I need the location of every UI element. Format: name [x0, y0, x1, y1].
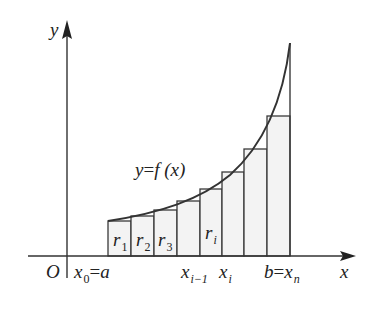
curve-label-rhs: f (x): [154, 159, 185, 180]
tick-label-b-equals-xn: b=xn: [264, 262, 300, 281]
curve-label: y=f (x): [135, 160, 185, 179]
rectangle-4: [177, 201, 200, 256]
bar-label-ri: ri: [205, 223, 217, 242]
y-axis-label: y: [50, 20, 58, 39]
curve-label-eq: =: [143, 159, 154, 180]
rectangle-7: [244, 149, 267, 256]
bar-label-r3: r3: [158, 230, 172, 249]
tick-label-x-i: xi: [219, 262, 232, 281]
x-axis-label: x: [340, 262, 348, 281]
rectangle-6: [222, 172, 244, 256]
bar-label-r2: r2: [136, 230, 150, 249]
bar-label-r1: r1: [113, 230, 127, 249]
tick-label-x0-equals-a: x0=a: [74, 262, 110, 281]
rectangle-8: [267, 116, 290, 256]
origin-label: O: [46, 262, 60, 281]
tick-label-x-i-minus-1: xi−1: [181, 262, 208, 281]
